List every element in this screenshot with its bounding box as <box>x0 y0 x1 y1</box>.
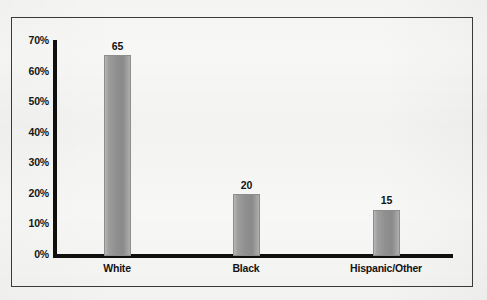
x-axis-label-black: Black <box>232 262 259 274</box>
plot-area: 65 20 15 <box>56 40 456 256</box>
bar-black[interactable] <box>233 194 260 256</box>
y-tick-label-20: 20% <box>5 187 49 199</box>
bar-value-black: 20 <box>241 179 252 191</box>
chart-screenshot: 70% 60% 50% 40% 30% 20% 10% 0% 65 20 15 … <box>0 0 487 300</box>
bar-value-hispanic-other: 15 <box>381 194 392 206</box>
y-tick-label-70: 70% <box>5 34 49 46</box>
y-tick-label-40: 40% <box>5 126 49 138</box>
x-axis-label-hispanic-other: Hispanic/Other <box>350 262 422 274</box>
y-tick-label-50: 50% <box>5 95 49 107</box>
y-tick-label-10: 10% <box>5 217 49 229</box>
bar-group-hispanic-other[interactable]: 15 <box>373 40 400 256</box>
bar-value-white: 65 <box>112 40 123 52</box>
x-axis-label-white: White <box>103 262 131 274</box>
bar-white[interactable] <box>104 55 131 256</box>
y-tick-label-30: 30% <box>5 156 49 168</box>
y-tick-label-0: 0% <box>5 248 49 260</box>
y-axis-tick-labels: 70% 60% 50% 40% 30% 20% 10% 0% <box>4 0 49 300</box>
bar-group-white[interactable]: 65 <box>104 40 131 256</box>
y-tick-label-60: 60% <box>5 65 49 77</box>
bar-group-black[interactable]: 20 <box>233 40 260 256</box>
bar-hispanic-other[interactable] <box>373 210 400 256</box>
